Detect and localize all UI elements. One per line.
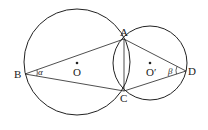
- label-a: A: [120, 26, 128, 38]
- geometry-diagram: A B C D O O′ α β: [0, 0, 208, 130]
- center-dot-o: [76, 62, 79, 65]
- label-d: D: [188, 65, 196, 77]
- label-o-prime: O′: [146, 66, 156, 78]
- label-o: O: [73, 66, 81, 78]
- center-dot-o-prime: [149, 62, 152, 65]
- angle-arc-beta: [176, 66, 177, 74]
- label-c: C: [120, 92, 127, 104]
- label-alpha: α: [38, 67, 43, 77]
- label-b: B: [14, 68, 21, 80]
- label-beta: β: [167, 66, 173, 76]
